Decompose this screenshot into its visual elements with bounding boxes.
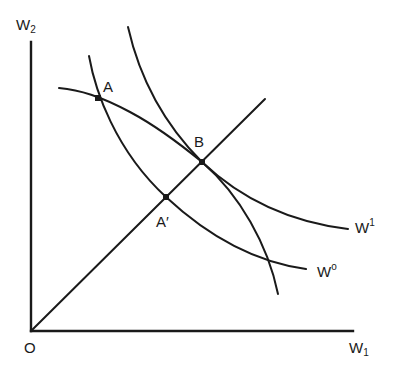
welfare-diagram: A A′ B W2 W1 O W1 Wo <box>0 0 394 372</box>
curve-label-w1: W1 <box>355 217 375 236</box>
indifference-curve-w1 <box>128 27 348 229</box>
point-b <box>199 159 205 165</box>
ray-from-origin <box>31 99 265 331</box>
label-b: B <box>194 133 204 150</box>
label-a: A <box>103 78 113 95</box>
indifference-curve-w0 <box>89 56 306 269</box>
point-a-prime <box>163 194 169 200</box>
curve-label-w0: Wo <box>317 261 337 280</box>
point-a <box>95 95 101 101</box>
y-axis-label: W2 <box>16 16 36 35</box>
origin-label: O <box>24 339 36 356</box>
label-a-prime: A′ <box>156 213 169 230</box>
x-axis-label: W1 <box>349 339 369 358</box>
